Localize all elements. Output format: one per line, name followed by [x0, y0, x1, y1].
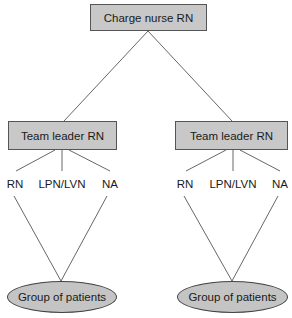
- charge-nurse-node: Charge nurse RN: [90, 4, 207, 31]
- connector-lines: [0, 0, 292, 318]
- member-rn-left: RN: [7, 178, 24, 191]
- patients-label: Group of patients: [18, 291, 106, 303]
- charge-nurse-label: Charge nurse RN: [104, 12, 193, 24]
- member-lpn-lvn-right: LPN/LVN: [209, 178, 256, 191]
- team-leader-label: Team leader RN: [190, 130, 273, 142]
- member-rn-right: RN: [177, 178, 194, 191]
- patients-label: Group of patients: [188, 291, 276, 303]
- team-leader-node-left: Team leader RN: [8, 121, 117, 150]
- member-na-left: NA: [102, 178, 118, 191]
- patients-node-left: Group of patients: [7, 281, 117, 313]
- member-lpn-lvn-left: LPN/LVN: [38, 178, 85, 191]
- patients-node-right: Group of patients: [177, 281, 288, 313]
- member-na-right: NA: [272, 178, 288, 191]
- team-leader-label: Team leader RN: [21, 130, 104, 142]
- team-leader-node-right: Team leader RN: [175, 121, 288, 150]
